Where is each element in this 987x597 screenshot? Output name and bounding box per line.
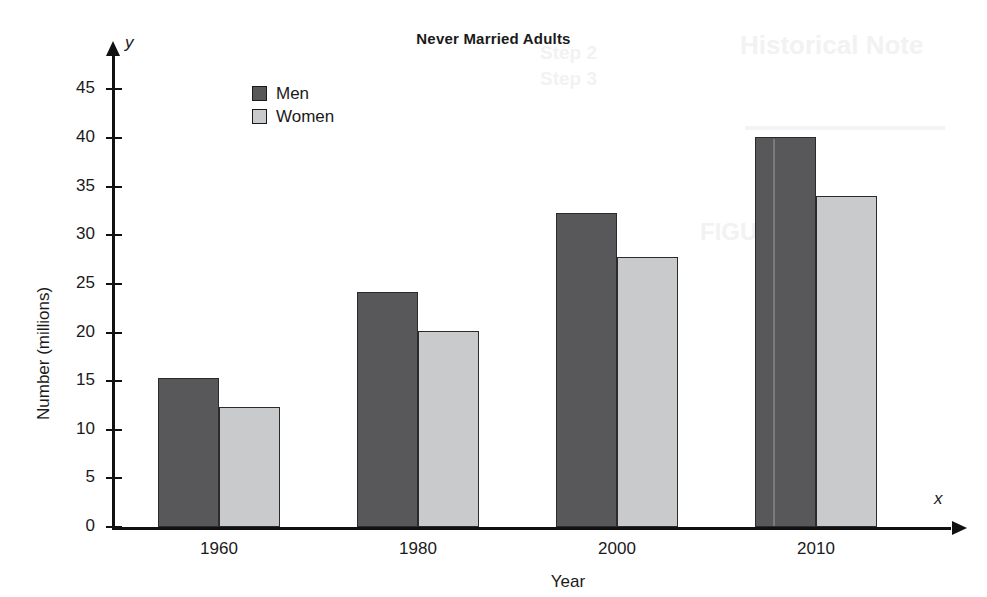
bar-women-1960 xyxy=(219,407,280,527)
y-axis-tick-label: 5 xyxy=(55,467,95,487)
legend-swatch-men-icon xyxy=(252,86,267,101)
y-axis-tick xyxy=(106,429,122,431)
y-axis-tick xyxy=(106,477,122,479)
legend-label: Men xyxy=(276,85,309,102)
legend-swatch-women-icon xyxy=(252,109,267,124)
y-axis-title: Number (millions) xyxy=(34,287,54,420)
bar-men-1960 xyxy=(158,378,219,527)
y-axis-tick xyxy=(106,283,122,285)
x-axis-line xyxy=(112,527,951,530)
bar-men-1980 xyxy=(357,292,418,527)
y-axis-tick-label: 10 xyxy=(55,419,95,439)
y-axis-arrow-icon xyxy=(106,41,120,56)
y-axis-tick xyxy=(106,234,122,236)
y-axis-tick-label: 45 xyxy=(55,78,95,98)
bar-women-2000 xyxy=(617,257,678,527)
chart-figure: Historical Note Step 2 Step 3 FIGURE 13 … xyxy=(0,0,987,597)
legend-item-women: Women xyxy=(252,105,334,128)
y-axis-symbol: y xyxy=(125,33,134,53)
x-axis-tick-label: 2000 xyxy=(557,539,677,559)
y-axis-tick-label: 15 xyxy=(55,370,95,390)
bar-men-2010 xyxy=(755,137,816,527)
y-axis-tick-label: 40 xyxy=(55,127,95,147)
y-axis-tick xyxy=(106,380,122,382)
legend-item-men: Men xyxy=(252,82,334,105)
y-axis-tick-label: 25 xyxy=(55,273,95,293)
plot-area: yx051015202530354045Number (millions)196… xyxy=(0,0,987,597)
x-axis-tick-label: 1960 xyxy=(159,539,279,559)
bar-women-1980 xyxy=(418,331,479,527)
y-axis-tick xyxy=(106,186,122,188)
x-axis-symbol: x xyxy=(934,489,943,509)
y-axis-line xyxy=(112,55,115,529)
y-axis-tick xyxy=(106,526,122,528)
x-axis-tick-label: 2010 xyxy=(756,539,876,559)
legend-label: Women xyxy=(276,108,334,125)
x-axis-tick-label: 1980 xyxy=(358,539,478,559)
y-axis-tick xyxy=(106,332,122,334)
y-axis-tick-label: 30 xyxy=(55,224,95,244)
bar-men-2000 xyxy=(556,213,617,527)
bar-women-2010 xyxy=(816,196,877,527)
y-axis-tick xyxy=(106,88,122,90)
y-axis-tick-label: 0 xyxy=(55,516,95,536)
x-axis-arrow-icon xyxy=(952,521,967,535)
y-axis-tick-label: 35 xyxy=(55,176,95,196)
x-axis-title: Year xyxy=(468,572,668,592)
y-axis-tick xyxy=(106,137,122,139)
y-axis-tick-label: 20 xyxy=(55,322,95,342)
chart-legend: MenWomen xyxy=(252,82,334,128)
